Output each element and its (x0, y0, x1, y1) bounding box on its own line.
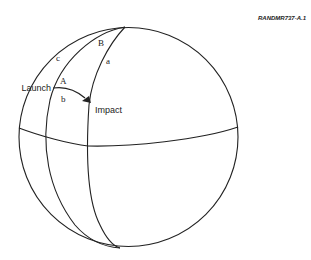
impact-label: Impact (95, 105, 123, 115)
side-a-label: a (106, 56, 110, 66)
launch-label: Launch (21, 83, 51, 93)
angle-A-label: A (60, 76, 67, 86)
trajectory-arc (53, 88, 85, 98)
sphere-diagram: RANDMR737-A.1 Launch Impact A B a b c (0, 0, 311, 260)
side-b-label: b (61, 94, 66, 104)
figure-id-label: RANDMR737-A.1 (258, 15, 307, 21)
side-c-label: c (56, 53, 60, 63)
equator-line (19, 127, 238, 146)
angle-B-label: B (98, 38, 104, 48)
sphere-outline (19, 28, 238, 247)
